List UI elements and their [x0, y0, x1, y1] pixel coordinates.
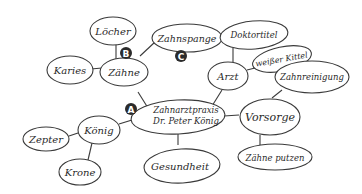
marker-b: B	[120, 47, 132, 59]
marker-a: A	[125, 103, 137, 115]
node-zahnspange[interactable]: Zahnspange	[152, 24, 222, 52]
edge-vorsorge-zahnreinigung	[272, 90, 282, 98]
zepter-label: Zepter	[28, 134, 64, 145]
zaehne-putzen-label: Zähne putzen	[245, 153, 305, 163]
edge-center-arzt	[212, 90, 222, 106]
edge-koenig-zepter	[69, 133, 78, 136]
node-zaehne-putzen[interactable]: Zähne putzen	[238, 144, 312, 170]
zaehne-label: Zähne	[107, 67, 140, 78]
edge-center-koenig	[119, 120, 132, 124]
marker-b-label: B	[123, 49, 130, 59]
node-zepter[interactable]: Zepter	[23, 127, 69, 151]
node-koenig[interactable]: König	[78, 116, 120, 144]
zahnspange-label: Zahnspange	[157, 33, 217, 44]
zahnreinigung-label: Zahnreinigung	[279, 72, 344, 82]
node-vorsorge[interactable]: Vorsorge	[240, 99, 300, 135]
edge-center-vorsorge	[224, 115, 239, 116]
doktortitel-label: Doktortitel	[230, 30, 278, 40]
vorsorge-label: Vorsorge	[245, 111, 295, 124]
node-loecher[interactable]: Löcher	[90, 17, 136, 45]
mind-map-canvas: Zahnarztpraxis Dr. Peter König Zähne Löc…	[0, 0, 362, 194]
node-krone[interactable]: Krone	[59, 159, 101, 185]
center-label-line2: Dr. Peter König	[152, 116, 219, 126]
node-zaehne[interactable]: Zähne	[100, 58, 148, 86]
edge-zaehne-zahnspange	[140, 42, 155, 56]
arzt-label: Arzt	[216, 71, 239, 82]
center-label-line1: Zahnarztpraxis	[152, 105, 219, 115]
node-zahnreinigung[interactable]: Zahnreinigung	[275, 61, 349, 93]
node-gesundheit[interactable]: Gesundheit	[143, 147, 221, 185]
edge-koenig-krone	[88, 143, 92, 160]
gesundheit-label: Gesundheit	[151, 161, 210, 172]
node-karies[interactable]: Karies	[47, 56, 93, 84]
krone-label: Krone	[64, 167, 96, 178]
node-arzt[interactable]: Arzt	[208, 62, 248, 90]
koenig-label: König	[83, 125, 113, 136]
loecher-label: Löcher	[94, 26, 132, 37]
marker-c: C	[175, 50, 187, 62]
node-doktortitel[interactable]: Doktortitel	[219, 18, 289, 52]
marker-a-label: A	[128, 105, 135, 115]
karies-label: Karies	[53, 65, 86, 76]
marker-c-label: C	[178, 52, 185, 62]
